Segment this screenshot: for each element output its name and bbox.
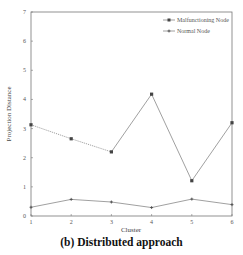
legend-label-malfunctioning: Malfunctioning Node xyxy=(177,17,229,23)
y-tick-label: 2 xyxy=(23,155,26,161)
x-tick-label: 5 xyxy=(190,219,193,225)
square-marker-icon xyxy=(110,150,113,153)
x-tick-label: 4 xyxy=(150,219,153,225)
x-tick-label: 3 xyxy=(110,219,113,225)
y-axis-label: Projection Distance xyxy=(5,86,13,141)
square-marker-icon xyxy=(190,179,193,182)
plus-marker-icon xyxy=(190,198,193,201)
y-tick-label: 7 xyxy=(23,9,26,15)
y-tick-label: 0 xyxy=(23,213,26,219)
figure-caption: (b) Distributed approach xyxy=(0,236,243,248)
x-tick-label: 2 xyxy=(70,219,73,225)
y-tick-label: 4 xyxy=(23,96,26,102)
plus-marker-icon xyxy=(150,206,153,209)
square-marker-icon xyxy=(29,123,32,126)
plus-marker-icon xyxy=(168,30,171,33)
x-tick-label: 1 xyxy=(30,219,33,225)
x-tick-label: 6 xyxy=(231,219,234,225)
line-chart: 01234567 123456 Malfunctioning Node Norm… xyxy=(0,0,243,255)
legend-label-normal: Normal Node xyxy=(177,28,210,34)
square-marker-icon xyxy=(150,93,153,96)
plus-marker-icon xyxy=(110,201,113,204)
y-tick-label: 3 xyxy=(23,126,26,132)
y-axis-ticks: 01234567 xyxy=(23,9,33,219)
plot-frame xyxy=(31,12,232,216)
y-tick-label: 6 xyxy=(23,38,26,44)
square-marker-icon xyxy=(70,137,73,140)
x-axis-label: Cluster xyxy=(121,226,142,234)
y-tick-label: 1 xyxy=(23,184,26,190)
data-series xyxy=(29,93,233,209)
plus-marker-icon xyxy=(30,206,33,209)
y-tick-label: 5 xyxy=(23,67,26,73)
legend: Malfunctioning Node Normal Node xyxy=(163,17,229,34)
plus-marker-icon xyxy=(70,198,73,201)
square-marker-icon xyxy=(230,121,233,124)
square-marker-icon xyxy=(168,19,171,22)
plus-marker-icon xyxy=(231,203,234,206)
